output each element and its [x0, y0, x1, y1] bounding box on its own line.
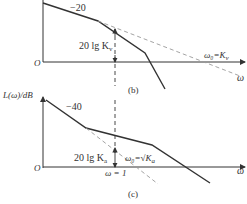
- figure-b: −20 20 lg Kv ω₀=Kv O ω (b): [34, 0, 245, 95]
- omega-one-label-c: ω = 1: [105, 168, 126, 178]
- bode-curve-c: [46, 100, 210, 183]
- y-axis-label-c: L(ω)/dB: [2, 90, 33, 100]
- figure-c: L(ω)/dB −40 20 lg Ka ω₀=√Ka O ω = 1 ω (c…: [2, 90, 245, 199]
- origin-label-b: O: [34, 58, 41, 68]
- asymptote-b: [98, 21, 240, 76]
- crossover-label-c: ω₀=√Ka: [125, 153, 156, 165]
- caption-b: (b): [128, 85, 139, 95]
- gain-label-b: 20 lg Kv: [79, 40, 113, 53]
- crossover-label-b: ω₀=Kv: [204, 50, 230, 62]
- origin-label-c: O: [34, 163, 41, 173]
- slope-label-b: −20: [70, 2, 86, 13]
- gain-label-c: 20 lg Ka: [74, 152, 108, 165]
- slope-label-c: −40: [66, 101, 82, 112]
- x-axis-label-b: ω: [237, 72, 244, 83]
- bode-diagrams: −20 20 lg Kv ω₀=Kv O ω (b) L(ω)/dB −40 2…: [0, 0, 247, 204]
- x-axis-label-c: ω: [237, 165, 244, 176]
- caption-c: (c): [128, 189, 138, 199]
